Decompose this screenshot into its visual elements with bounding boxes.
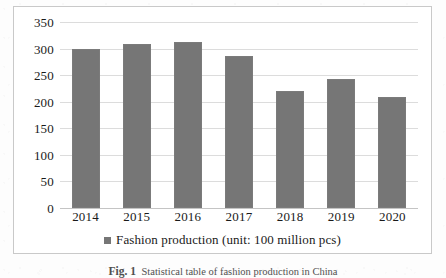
document-page: 050100150200250300350 201420152016201720… — [0, 0, 446, 278]
bar[interactable] — [276, 91, 304, 208]
y-axis-tick-label: 250 — [34, 69, 54, 82]
bar-slot — [316, 22, 367, 208]
plot-area — [60, 22, 418, 208]
bar[interactable] — [378, 97, 406, 208]
bar-slot — [60, 22, 111, 208]
bar-slot — [162, 22, 213, 208]
figure-border: 050100150200250300350 201420152016201720… — [13, 6, 432, 254]
x-axis-tick-label: 2016 — [162, 210, 213, 223]
bar[interactable] — [72, 49, 100, 208]
x-axis: 2014201520162017201820192020 — [60, 210, 418, 223]
bar-series — [60, 22, 418, 208]
bar-slot — [111, 22, 162, 208]
legend-label: Fashion production (unit: 100 million pc… — [116, 233, 341, 246]
figure-caption-label: Fig. 1 — [109, 265, 136, 277]
bar[interactable] — [327, 79, 355, 208]
x-axis-tick-label: 2015 — [111, 210, 162, 223]
x-axis-tick-label: 2019 — [316, 210, 367, 223]
chart-legend: Fashion production (unit: 100 million pc… — [14, 233, 431, 246]
y-axis: 050100150200250300350 — [14, 7, 60, 223]
x-axis-tick-label: 2018 — [265, 210, 316, 223]
y-axis-tick-label: 300 — [34, 42, 54, 55]
legend-swatch-icon — [104, 237, 111, 244]
x-axis-tick-label: 2017 — [213, 210, 264, 223]
bar-chart: 050100150200250300350 201420152016201720… — [14, 7, 431, 223]
bar[interactable] — [174, 42, 202, 208]
y-axis-tick-label: 350 — [34, 16, 54, 29]
bar[interactable] — [225, 56, 253, 208]
y-axis-tick-label: 150 — [34, 122, 54, 135]
bar-slot — [367, 22, 418, 208]
bar[interactable] — [123, 44, 151, 208]
y-axis-tick-label: 100 — [34, 148, 54, 161]
y-axis-tick-label: 200 — [34, 95, 54, 108]
x-axis-tick-label: 2020 — [367, 210, 418, 223]
bar-slot — [213, 22, 264, 208]
y-axis-tick-label: 50 — [41, 175, 54, 188]
x-axis-tick-label: 2014 — [60, 210, 111, 223]
bar-slot — [265, 22, 316, 208]
figure-caption-text: Statistical table of fashion production … — [142, 266, 338, 277]
y-axis-tick-label: 0 — [47, 202, 54, 215]
figure-caption: Fig. 1 Statistical table of fashion prod… — [0, 264, 446, 278]
